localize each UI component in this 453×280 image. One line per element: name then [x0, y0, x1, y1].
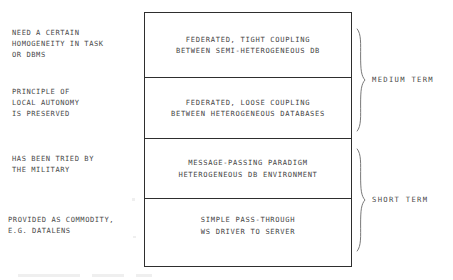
row-line: BETWEEN HETEROGENEOUS DATABASES: [171, 108, 325, 119]
note-line: HOMOGENEITY IN TASK: [12, 38, 144, 49]
row-simple-pass-through: SIMPLE PASS-THROUGH WS DRIVER TO SERVER: [145, 198, 351, 266]
row-line: WS DRIVER TO SERVER: [201, 226, 295, 237]
row-line: MESSAGE-PASSING PARADIGM: [188, 157, 307, 168]
note-line: OR DBMS: [12, 49, 144, 60]
note-line: LOCAL AUTONOMY: [12, 97, 144, 108]
note-line: NEED A CERTAIN: [12, 27, 144, 38]
row-line: HETEROGENEOUS DB ENVIRONMENT: [178, 169, 317, 180]
group-medium-term-label: MEDIUM TERM: [372, 75, 434, 84]
row-line: BETWEEN SEMI-HETEROGENEOUS DB: [176, 45, 320, 56]
row-message-passing: MESSAGE-PASSING PARADIGM HETEROGENEOUS D…: [145, 138, 351, 198]
note-line: PROVIDED AS COMMODITY,: [8, 214, 148, 225]
note-local-autonomy: PRINCIPLE OF LOCAL AUTONOMY IS PRESERVED: [12, 86, 144, 120]
row-federated-loose-coupling: FEDERATED, LOOSE COUPLING BETWEEN HETERO…: [145, 77, 351, 138]
note-homogeneity: NEED A CERTAIN HOMOGENEITY IN TASK OR DB…: [12, 27, 144, 61]
row-federated-tight-coupling: FEDERATED, TIGHT COUPLING BETWEEN SEMI-H…: [145, 13, 351, 77]
note-commodity: PROVIDED AS COMMODITY, E.G. DATALENS: [8, 214, 148, 236]
brace-short-term: [354, 148, 366, 252]
note-line: HAS BEEN TRIED BY: [12, 153, 144, 164]
note-line: E.G. DATALENS: [8, 225, 148, 236]
note-line: THE MILITARY: [12, 164, 144, 175]
row-line: FEDERATED, TIGHT COUPLING: [186, 34, 310, 45]
left-annotation-column: NEED A CERTAIN HOMOGENEITY IN TASK OR DB…: [0, 0, 144, 280]
group-short-term-label: SHORT TERM: [372, 195, 428, 204]
row-line: SIMPLE PASS-THROUGH: [201, 214, 295, 225]
note-line: IS PRESERVED: [12, 108, 144, 119]
note-military: HAS BEEN TRIED BY THE MILITARY: [12, 153, 144, 175]
brace-medium-term: [354, 28, 366, 132]
diagram-canvas: NEED A CERTAIN HOMOGENEITY IN TASK OR DB…: [0, 0, 453, 280]
note-line: PRINCIPLE OF: [12, 86, 144, 97]
row-line: FEDERATED, LOOSE COUPLING: [186, 97, 310, 108]
approach-stack: FEDERATED, TIGHT COUPLING BETWEEN SEMI-H…: [144, 12, 352, 267]
